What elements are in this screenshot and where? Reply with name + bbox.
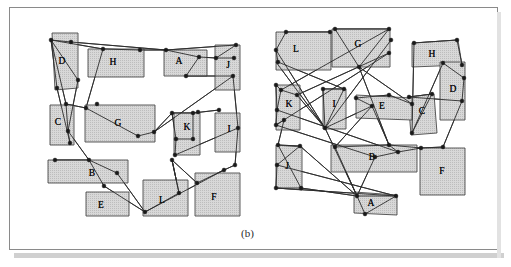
graph-node-box-l[interactable] bbox=[143, 180, 188, 216]
graph-node-label-top-l: L bbox=[293, 44, 299, 54]
graph-port-dot bbox=[354, 96, 358, 100]
graph-port-dot bbox=[274, 48, 278, 52]
graph-port-dot bbox=[410, 102, 414, 106]
page-shadow-bottom bbox=[14, 253, 504, 258]
graph-port-dot bbox=[53, 158, 57, 162]
graph-port-dot bbox=[233, 163, 237, 167]
graph-port-dot bbox=[460, 63, 464, 67]
graph-port-dot bbox=[284, 30, 288, 34]
graph-node-label-top-h: H bbox=[110, 57, 117, 67]
graph-port-dot bbox=[87, 158, 91, 162]
graph-port-dot bbox=[101, 47, 105, 51]
graph-port-dot bbox=[115, 171, 119, 175]
graph-port-dot bbox=[174, 137, 178, 141]
graph-port-dot bbox=[49, 38, 53, 42]
right-graph: LGHDCKIEJBAFLGHDCKIEJBAF bbox=[274, 27, 466, 216]
graph-port-dot bbox=[274, 123, 278, 127]
graph-port-dot bbox=[231, 74, 235, 78]
graph-port-dot bbox=[387, 51, 391, 55]
graph-port-dot bbox=[387, 143, 391, 147]
graph-port-dot bbox=[412, 41, 416, 45]
graph-port-dot bbox=[430, 92, 434, 96]
graph-node-label-top-e: E bbox=[98, 200, 104, 210]
graph-port-dot bbox=[321, 87, 325, 91]
page-shadow-right bbox=[497, 12, 501, 258]
graph-node-label-top-b: B bbox=[369, 152, 375, 162]
graph-node-label-top-k: K bbox=[184, 122, 191, 132]
graph-node-box-e[interactable] bbox=[86, 192, 129, 216]
graph-port-dot bbox=[232, 56, 236, 60]
graph-port-dot bbox=[195, 181, 199, 185]
graph-port-dot bbox=[276, 60, 280, 64]
graph-port-dot bbox=[234, 43, 238, 47]
graph-port-dot bbox=[363, 212, 367, 216]
graph-node-label-top-i: I bbox=[332, 99, 335, 109]
graph-port-dot bbox=[152, 130, 156, 134]
graph-port-dot bbox=[455, 38, 459, 42]
graph-port-dot bbox=[222, 168, 226, 172]
graph-port-dot bbox=[236, 126, 240, 130]
graph-port-dot bbox=[276, 143, 280, 147]
graph-port-dot bbox=[102, 184, 106, 188]
graph-port-dot bbox=[407, 95, 411, 99]
graph-port-dot bbox=[355, 194, 359, 198]
graph-node-label-top-g: G bbox=[355, 39, 362, 49]
graph-port-dot bbox=[328, 30, 332, 34]
graph-node-label-top-a: A bbox=[176, 56, 183, 66]
graph-node-label-top-e: E bbox=[379, 101, 385, 111]
graph-port-dot bbox=[196, 110, 200, 114]
graph-port-dot bbox=[197, 55, 201, 59]
graph-port-dot bbox=[191, 111, 195, 115]
graph-node-label-top-l: L bbox=[159, 195, 165, 205]
graph-port-dot bbox=[357, 65, 361, 69]
graph-node-box-f[interactable] bbox=[195, 173, 240, 216]
graph-node-label-top-d: D bbox=[59, 56, 66, 66]
graph-port-dot bbox=[462, 76, 466, 80]
graph-port-dot bbox=[66, 129, 70, 133]
graph-port-dot bbox=[177, 191, 181, 195]
graph-port-dot bbox=[299, 186, 303, 190]
graph-port-dot bbox=[274, 186, 278, 190]
graph-node-label-top-c: C bbox=[419, 106, 425, 116]
orthogonal-layout-boxes: DHAJCGKIBELF bbox=[48, 33, 240, 216]
graph-port-dot bbox=[460, 99, 464, 103]
graph-node-label-top-c: C bbox=[55, 117, 61, 127]
graph-port-dot bbox=[173, 153, 177, 157]
graph-port-dot bbox=[342, 87, 346, 91]
graph-node-label-top-d: D bbox=[450, 84, 457, 94]
graph-port-dot bbox=[191, 137, 195, 141]
graph-port-dot bbox=[68, 141, 72, 145]
graph-port-dot bbox=[389, 38, 393, 42]
graph-node-label-top-h: H bbox=[429, 49, 436, 59]
graph-node-label-top-f: F bbox=[439, 166, 444, 176]
graph-edge bbox=[276, 188, 396, 196]
graph-port-dot bbox=[84, 106, 88, 110]
figure-page: DHAJCGKIBELFDHAJCGKIBELF LGHDCKIEJBAFLGH… bbox=[0, 0, 511, 267]
graph-port-dot bbox=[214, 56, 218, 60]
graph-port-dot bbox=[95, 102, 99, 106]
graph-port-dot bbox=[275, 163, 279, 167]
graph-node-label-top-f: F bbox=[211, 192, 216, 202]
graph-port-dot bbox=[64, 102, 68, 106]
graph-port-dot bbox=[333, 27, 337, 31]
graph-port-dot bbox=[55, 86, 59, 90]
graph-node-label-top-g: G bbox=[115, 118, 122, 128]
graph-port-dot bbox=[387, 27, 391, 31]
graph-node-label-top-b: B bbox=[89, 168, 95, 178]
graph-port-dot bbox=[138, 48, 142, 52]
graph-figure-canvas: DHAJCGKIBELFDHAJCGKIBELF LGHDCKIEJBAFLGH… bbox=[0, 0, 511, 267]
left-graph: DHAJCGKIBELFDHAJCGKIBELF bbox=[48, 33, 240, 216]
graph-port-dot bbox=[298, 144, 302, 148]
graph-port-dot bbox=[170, 111, 174, 115]
graph-port-dot bbox=[419, 146, 423, 150]
graph-port-dot bbox=[184, 74, 188, 78]
graph-port-dot bbox=[295, 93, 299, 97]
graph-port-dot bbox=[274, 83, 278, 87]
graph-port-dot bbox=[170, 158, 174, 162]
graph-port-dot bbox=[387, 93, 391, 97]
graph-node-label-top-i: I bbox=[227, 124, 230, 134]
graph-port-dot bbox=[136, 134, 140, 138]
graph-node-label-top-k: K bbox=[286, 99, 293, 109]
graph-port-dot bbox=[441, 61, 445, 65]
graph-node-box-k[interactable] bbox=[174, 113, 200, 155]
